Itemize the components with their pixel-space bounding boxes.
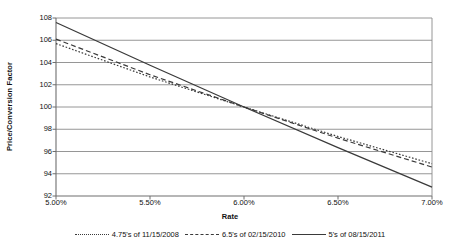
x-tick-6-00: 6.00% [233, 199, 254, 207]
price-conversion-factor-chart: Price/Conversion Factor 108 106 104 102 … [0, 0, 460, 252]
legend-label-6-5s-of-02-15-2010: 6.5's of 02/15/2010 [222, 230, 286, 239]
legend-swatch-dashed-icon [185, 234, 219, 236]
legend-entry-4-75s-of-11-15-2008: 4.75's of 11/15/2008 [75, 230, 179, 239]
legend-entry-5s-of-08-15-2011: 5's of 08/15/2011 [292, 230, 386, 239]
x-tick-6-50: 6.50% [327, 199, 348, 207]
legend-label-4-75s-of-11-15-2008: 4.75's of 11/15/2008 [112, 230, 179, 239]
legend-label-5s-of-08-15-2011: 5's of 08/15/2011 [329, 230, 386, 239]
series-line-4-75s-of-11-15-2008 [56, 44, 432, 164]
gridlines [56, 18, 432, 174]
legend-swatch-dotted-icon [75, 234, 109, 236]
x-tick-5-00: 5.00% [45, 199, 66, 207]
legend-swatch-solid-icon [292, 234, 326, 236]
x-tick-7-00: 7.00% [421, 199, 442, 207]
data-series [56, 22, 432, 187]
x-tick-5-50: 5.50% [139, 199, 160, 207]
chart-legend: 4.75's of 11/15/2008 6.5's of 02/15/2010… [0, 230, 460, 239]
x-axis-label: Rate [0, 212, 460, 221]
series-line-5s-of-08-15-2011 [56, 22, 432, 187]
series-line-6-5s-of-02-15-2010 [56, 39, 432, 167]
legend-entry-6-5s-of-02-15-2010: 6.5's of 02/15/2010 [185, 230, 286, 239]
